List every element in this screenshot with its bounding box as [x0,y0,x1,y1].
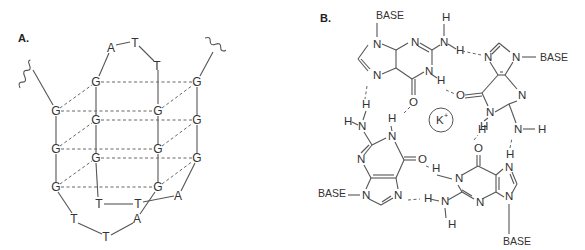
loop-top-a: A [107,41,115,55]
g-quadruplex-figure: A. [0,0,585,250]
loop-top-t2: T [153,59,161,73]
guanine-front-1: G [51,104,60,118]
svg-text:H: H [442,11,450,23]
loop-bottom-t1: T [95,197,103,211]
svg-text:O: O [456,89,465,101]
svg-text:BASE: BASE [503,235,531,247]
loop-bottom-t4: T [102,230,110,244]
guanine-bottom-right: O H N H H N H N N N H BASE [408,123,531,247]
svg-text:N: N [514,123,522,135]
svg-text:N: N [486,106,494,118]
wavy-strand-right-icon [205,34,227,54]
svg-text:H: H [388,112,396,124]
guanine-back-2: G [192,75,201,89]
svg-text:O: O [474,142,483,154]
potassium-ion: K + [429,108,453,132]
loop-top-t1: T [131,36,139,50]
svg-text:BASE: BASE [540,51,568,63]
guanine-back-5: G [91,151,100,165]
svg-text:N: N [373,69,381,81]
svg-text:H: H [424,192,432,204]
guanine-back-6: G [192,151,201,165]
svg-text:N: N [373,38,381,50]
svg-text:N: N [358,120,366,132]
panel-a: A. [12,32,227,244]
svg-text:BASE: BASE [318,187,346,199]
loop-bottom-a2: A [133,212,141,226]
svg-text:N: N [512,51,520,63]
svg-text:N: N [484,51,492,63]
guanine-front-3: G [51,142,60,156]
svg-text:H: H [362,98,370,110]
svg-text:K: K [436,114,444,126]
svg-text:H: H [456,44,464,56]
loop-bottom-t2: T [134,197,142,211]
guanine-front-5: G [51,180,60,194]
svg-text:N: N [505,161,513,173]
loop-bottom-t3: T [70,212,78,226]
guanine-front-6: G [153,180,162,194]
guanine-back-1: G [91,75,100,89]
panel-a-label: A. [18,32,29,44]
svg-text:N: N [476,196,484,208]
svg-text:N: N [394,189,402,201]
wavy-strand-left-icon [12,60,38,88]
svg-text:H: H [344,115,352,127]
guanine-front-2: G [153,104,162,118]
svg-text:+: + [444,112,448,119]
svg-text:O: O [418,153,427,165]
svg-text:H: H [437,74,445,86]
svg-text:O: O [409,96,418,108]
svg-text:N: N [455,172,463,184]
svg-text:N: N [440,36,448,48]
loop-bottom-a1: A [174,189,182,203]
tetrad-bonds [60,82,193,187]
guanine-top-right: N N BASE N N O N H H [446,43,568,135]
guanine-front-4: G [153,142,162,156]
panel-b-label: B. [320,12,331,24]
svg-text:BASE: BASE [376,9,404,21]
svg-text:N: N [441,195,449,207]
guanine-top-left: BASE N N N N O N H H H [358,9,464,108]
svg-text:H: H [478,123,486,135]
guanine-back-3: G [91,113,100,127]
svg-text:N: N [388,130,396,142]
panel-b: B. K + BASE N N N N O N H H H [318,9,568,247]
svg-text:H: H [538,123,546,135]
svg-text:H: H [432,162,440,174]
guanine-back-4: G [192,113,201,127]
svg-text:N: N [518,89,526,101]
svg-text:H: H [448,218,456,230]
svg-text:H: H [506,148,514,160]
